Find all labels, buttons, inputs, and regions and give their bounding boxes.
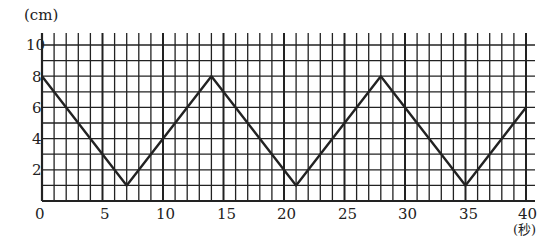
x-tick-label-5: 5 bbox=[100, 207, 110, 222]
x-tick-label-15: 15 bbox=[217, 207, 236, 222]
y-tick-label-8: 8 bbox=[32, 70, 42, 85]
y-axis-unit-label: (cm) bbox=[24, 8, 58, 23]
x-tick-label-35: 35 bbox=[459, 207, 478, 222]
x-tick-label-25: 25 bbox=[338, 207, 357, 222]
x-tick-label-0: 0 bbox=[35, 207, 45, 222]
y-tick-label-2: 2 bbox=[32, 163, 42, 178]
x-tick-label-40: 40 bbox=[518, 207, 537, 222]
x-tick-label-10: 10 bbox=[156, 207, 175, 222]
x-axis-unit-label: (秒) bbox=[513, 223, 536, 236]
x-tick-label-20: 20 bbox=[277, 207, 296, 222]
y-tick-label-6: 6 bbox=[32, 101, 42, 116]
x-tick-label-30: 30 bbox=[398, 207, 417, 222]
y-tick-label-4: 4 bbox=[32, 132, 42, 147]
y-tick-label-10: 10 bbox=[26, 38, 45, 53]
